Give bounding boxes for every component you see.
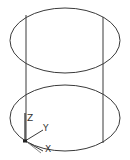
ucs-x-label: X — [45, 144, 51, 154]
ucs-axis-icon: Z Y X — [23, 113, 51, 154]
ucs-y-label: Y — [42, 123, 49, 133]
ucs-z-label: Z — [27, 113, 33, 123]
cad-viewport[interactable]: Z Y X — [0, 0, 130, 160]
ucs-origin-marker — [23, 140, 27, 143]
ucs-y-axis — [25, 130, 43, 141]
